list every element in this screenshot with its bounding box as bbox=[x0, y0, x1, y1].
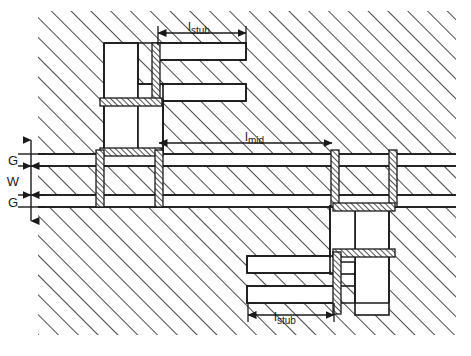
bridge-top-vertical-a bbox=[152, 43, 160, 105]
label-gap-bottom: G bbox=[8, 195, 18, 210]
dimension-gwg-labels: G W G bbox=[7, 153, 20, 210]
bridge-mid-horizontal-right bbox=[333, 203, 395, 211]
bridge-mid-horizontal-left bbox=[100, 148, 162, 156]
bridge-mid-vertical-left bbox=[96, 150, 104, 207]
label-stub-bottom-sub: stub bbox=[277, 315, 296, 326]
bridge-mid-vertical-far-right bbox=[389, 150, 397, 207]
bridge-top-horizontal-a bbox=[100, 98, 162, 106]
bridge-mid-vertical-center bbox=[155, 150, 163, 207]
cpw-stub-diagram: lstub lmid lstub G W G bbox=[0, 0, 471, 356]
label-stub-top-sub: stub bbox=[191, 25, 210, 36]
label-width: W bbox=[7, 174, 20, 189]
diagram-root: lstub lmid lstub G W G bbox=[0, 0, 471, 356]
label-gap-top: G bbox=[8, 153, 18, 168]
label-mid-sub: mid bbox=[248, 135, 264, 146]
bridge-bottom-horizontal-a bbox=[333, 249, 395, 257]
bridge-mid-vertical-right bbox=[331, 150, 339, 207]
